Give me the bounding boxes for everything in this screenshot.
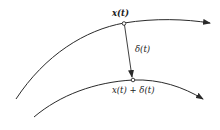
label-x-plus-delta: x(t) + δ(t) [112,86,155,95]
label-x-t: x(t) [112,9,129,18]
perturbation-arrow [125,25,133,77]
point-x-t [122,22,126,26]
trajectory-perturbation-diagram [0,0,220,130]
label-delta-t: δ(t) [135,45,150,54]
point-x-plus-delta [131,78,135,82]
